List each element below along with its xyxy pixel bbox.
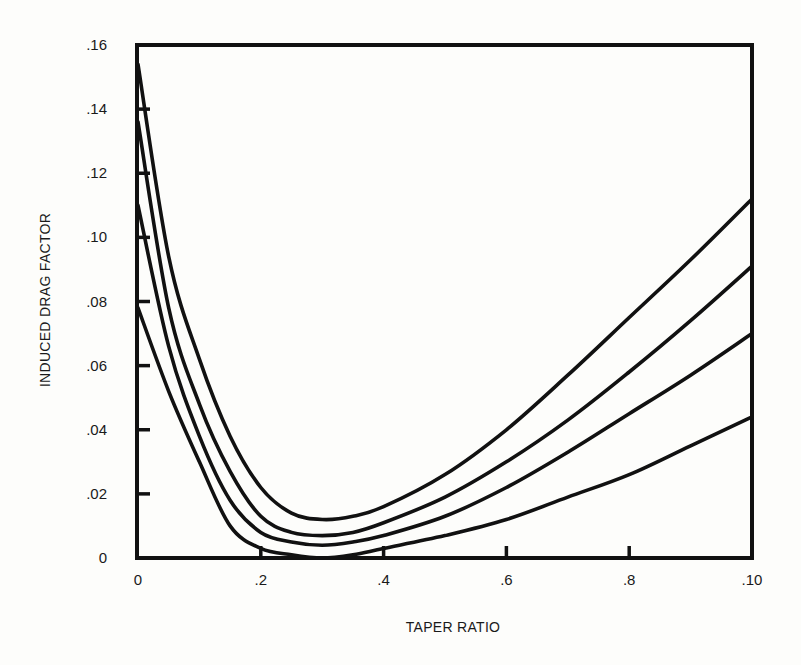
y-tick-label: .12 <box>86 164 107 181</box>
induced-drag-chart: 0.02.04.06.08.10.12.14.16 0.2.4.6.8.10 I… <box>0 0 801 665</box>
x-axis-tick-labels: 0.2.4.6.8.10 <box>134 571 763 588</box>
x-tick-label: .6 <box>500 571 513 588</box>
plot-frame <box>137 45 752 558</box>
y-tick-label: .04 <box>86 421 107 438</box>
data-curves <box>138 64 752 558</box>
y-tick-label: .10 <box>86 228 107 245</box>
y-axis-title: INDUCED DRAG FACTOR <box>37 213 53 387</box>
x-axis-title: TAPER RATIO <box>406 619 501 635</box>
y-tick-label: .02 <box>86 485 107 502</box>
x-tick-label: .4 <box>377 571 390 588</box>
x-tick-label: .2 <box>255 571 268 588</box>
y-tick-label: .14 <box>86 100 107 117</box>
curve-3 <box>138 205 752 545</box>
x-tick-label: .8 <box>623 571 636 588</box>
y-tick-label: .16 <box>86 36 107 53</box>
curve-1 <box>138 64 752 519</box>
y-tick-label: .06 <box>86 357 107 374</box>
y-axis-tick-labels: 0.02.04.06.08.10.12.14.16 <box>86 36 107 566</box>
y-tick-label: 0 <box>99 549 107 566</box>
x-tick-label: 0 <box>134 571 142 588</box>
y-tick-label: .08 <box>86 293 107 310</box>
x-tick-label: .10 <box>742 571 763 588</box>
